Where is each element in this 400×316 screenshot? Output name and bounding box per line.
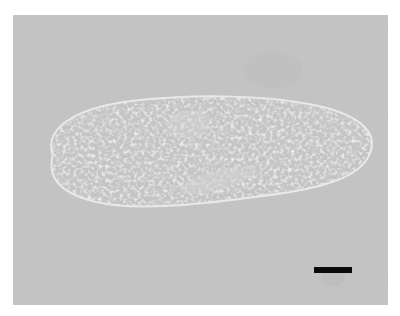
scale-bar	[314, 267, 352, 273]
micrograph-frame	[13, 15, 388, 305]
micrograph-image	[13, 15, 388, 305]
